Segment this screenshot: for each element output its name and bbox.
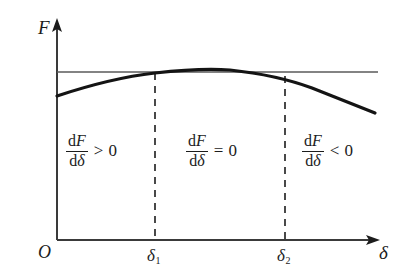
denominator-delta-middle: δ [197, 152, 204, 169]
fraction-dF-ddelta-middle: dF dδ [186, 133, 208, 170]
relation-middle: = 0 [214, 141, 238, 161]
f-delta-curve [57, 69, 375, 113]
fraction-dF-ddelta-left: dF dδ [66, 133, 88, 170]
denominator-delta-right: δ [313, 152, 320, 169]
y-axis [52, 18, 62, 240]
tick-subscript-delta2: 2 [285, 255, 290, 266]
origin-label: O [38, 243, 51, 261]
relation-right: < 0 [330, 141, 354, 161]
numerator-F-middle: F [196, 132, 206, 149]
figure-canvas: F δ O δ1 δ2 dF dδ > 0 dF dδ = 0 dF dδ < … [0, 0, 403, 280]
tick-symbol-delta2: δ [277, 246, 285, 265]
fraction-numerator-middle: dF [186, 133, 208, 150]
fraction-denominator-right: dδ [303, 153, 322, 170]
annotation-region-stationary: dF dδ = 0 [186, 133, 238, 170]
numerator-F-right: F [312, 132, 322, 149]
fraction-numerator-right: dF [302, 133, 324, 150]
tick-subscript-delta1: 1 [155, 255, 160, 266]
denominator-d-middle: d [189, 152, 197, 169]
tick-label-delta2: δ2 [277, 247, 290, 264]
annotation-region-increasing: dF dδ > 0 [66, 133, 118, 170]
tick-symbol-delta1: δ [147, 246, 155, 265]
fraction-denominator-left: dδ [67, 153, 86, 170]
x-axis [57, 235, 380, 245]
relation-left: > 0 [94, 141, 118, 161]
numerator-d-middle: d [188, 132, 196, 149]
numerator-d-left: d [68, 132, 76, 149]
x-axis-label: δ [379, 243, 388, 262]
y-axis-label: F [38, 18, 50, 37]
fraction-denominator-middle: dδ [187, 153, 206, 170]
denominator-delta-left: δ [77, 152, 84, 169]
fraction-numerator-left: dF [66, 133, 88, 150]
fraction-dF-ddelta-right: dF dδ [302, 133, 324, 170]
denominator-d-left: d [69, 152, 77, 169]
annotation-region-decreasing: dF dδ < 0 [302, 133, 354, 170]
numerator-F-left: F [76, 132, 86, 149]
numerator-d-right: d [304, 132, 312, 149]
tick-label-delta1: δ1 [147, 247, 160, 264]
denominator-d-right: d [305, 152, 313, 169]
